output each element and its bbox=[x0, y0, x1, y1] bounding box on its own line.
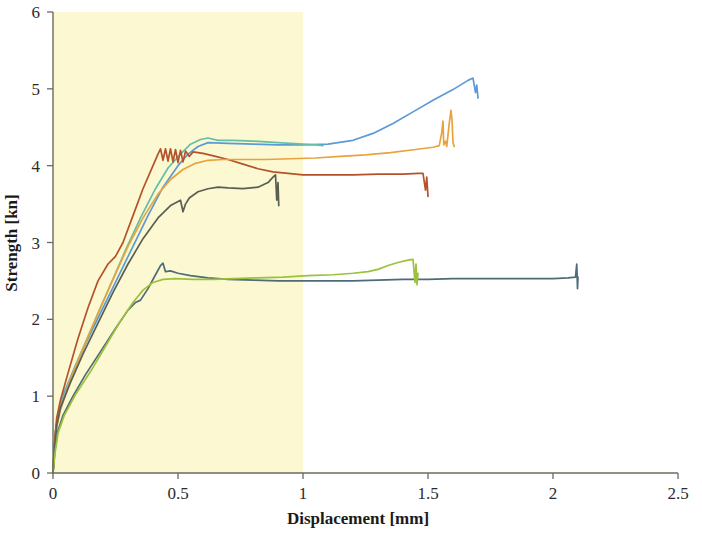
y-tick-label: 4 bbox=[32, 157, 41, 176]
yellow-shaded-region bbox=[53, 12, 303, 473]
x-tick-label: 1.5 bbox=[417, 484, 438, 503]
y-tick-label: 6 bbox=[32, 3, 41, 22]
y-tick-label: 1 bbox=[32, 387, 41, 406]
x-axis-title: Displacement [mm] bbox=[287, 509, 429, 528]
strength-displacement-chart: 00.511.522.5 0123456 Displacement [mm] S… bbox=[0, 0, 702, 533]
x-tick-label: 0.5 bbox=[167, 484, 188, 503]
y-tick-label: 0 bbox=[32, 464, 41, 483]
x-tick-label: 0 bbox=[49, 484, 58, 503]
y-axis-title: Strength [kn] bbox=[2, 194, 21, 291]
x-tick-label: 2 bbox=[549, 484, 558, 503]
x-tick-label: 2.5 bbox=[667, 484, 688, 503]
chart-container: 00.511.522.5 0123456 Displacement [mm] S… bbox=[0, 0, 702, 533]
y-tick-label: 5 bbox=[32, 80, 41, 99]
y-tick-label: 2 bbox=[32, 310, 41, 329]
x-tick-label: 1 bbox=[299, 484, 308, 503]
y-tick-label: 3 bbox=[32, 234, 41, 253]
